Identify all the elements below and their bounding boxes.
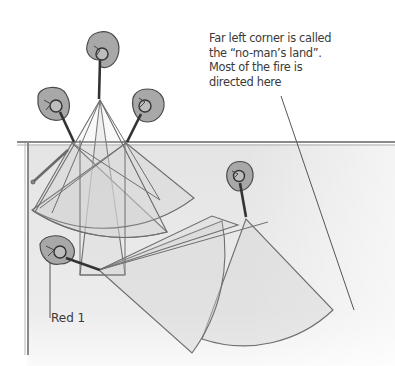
callout-line-1: Far left corner is called xyxy=(209,31,331,46)
callout-line-4: directed here xyxy=(209,75,331,90)
player-top-center xyxy=(87,32,119,99)
callout-line-3: Most of the fire is xyxy=(209,60,331,75)
callout-note: Far left corner is called the “no-man’s … xyxy=(209,31,331,89)
callout-line-2: the “no-man’s land”. xyxy=(209,46,331,61)
player-top-left xyxy=(38,87,74,142)
diagram-canvas: Far left corner is called the “no-man’s … xyxy=(0,0,395,366)
player-top-right xyxy=(127,89,164,142)
red-1-label: Red 1 xyxy=(51,311,85,325)
